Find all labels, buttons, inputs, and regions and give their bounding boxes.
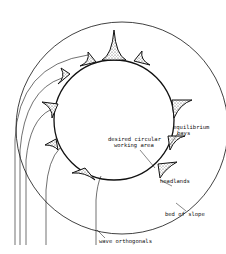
wave-orthogonals-label: wave orthogonals <box>99 238 152 244</box>
equilibrium-bays-label: equilibrium bays <box>173 124 209 136</box>
label-line: working area <box>108 142 161 148</box>
leader-lines <box>97 133 186 238</box>
equilibrium-bays <box>42 30 192 180</box>
bed-of-slope-label: bed of slope <box>165 211 205 217</box>
label-line: bays <box>173 130 209 136</box>
desired-working-area-label: desired circular working area <box>108 136 161 148</box>
working-area-circle <box>54 60 174 180</box>
headlands-label: headlands <box>160 178 190 184</box>
